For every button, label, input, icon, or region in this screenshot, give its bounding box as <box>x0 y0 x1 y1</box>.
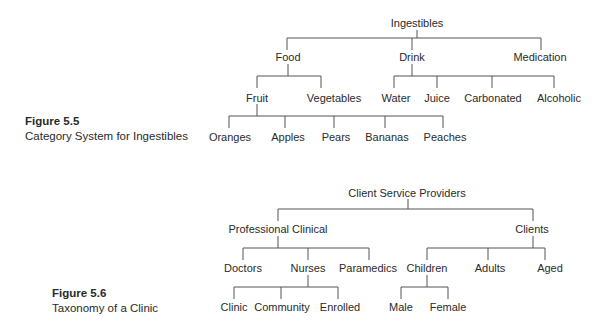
node-drink: Drink <box>399 52 425 63</box>
figure-number: Figure 5.5 <box>25 114 188 129</box>
node-clients: Clients <box>515 224 549 235</box>
figure-title: Taxonomy of a Clinic <box>52 302 158 314</box>
figure-5-6-caption: Figure 5.6 Taxonomy of a Clinic <box>52 286 158 316</box>
node-female: Female <box>430 302 467 313</box>
node-client-service-providers: Client Service Providers <box>348 188 465 199</box>
node-professional-clinical: Professional Clinical <box>228 224 327 235</box>
figure-5-5-caption: Figure 5.5 Category System for Ingestibl… <box>25 114 188 144</box>
node-doctors: Doctors <box>224 263 262 274</box>
node-juice: Juice <box>424 93 450 104</box>
node-peaches: Peaches <box>424 132 467 143</box>
node-apples: Apples <box>271 132 305 143</box>
figure-title: Category System for Ingestibles <box>25 130 188 142</box>
node-alcoholic: Alcoholic <box>537 93 581 104</box>
node-community: Community <box>254 302 310 313</box>
node-ingestibles: Ingestibles <box>391 18 444 29</box>
node-vegetables: Vegetables <box>307 93 361 104</box>
node-water: Water <box>382 93 411 104</box>
node-aged: Aged <box>537 263 563 274</box>
node-clinic: Clinic <box>221 302 248 313</box>
node-bananas: Bananas <box>365 132 408 143</box>
node-carbonated: Carbonated <box>464 93 522 104</box>
node-adults: Adults <box>475 263 506 274</box>
node-nurses: Nurses <box>291 263 326 274</box>
node-paramedics: Paramedics <box>339 263 397 274</box>
node-food: Food <box>275 52 300 63</box>
figure-number: Figure 5.6 <box>52 286 158 301</box>
node-pears: Pears <box>322 132 351 143</box>
node-children: Children <box>407 263 448 274</box>
node-enrolled: Enrolled <box>320 302 360 313</box>
node-fruit: Fruit <box>246 93 268 104</box>
node-oranges: Oranges <box>209 132 251 143</box>
node-male: Male <box>389 302 413 313</box>
node-medication: Medication <box>513 52 566 63</box>
tree-connector-lines <box>0 0 606 328</box>
